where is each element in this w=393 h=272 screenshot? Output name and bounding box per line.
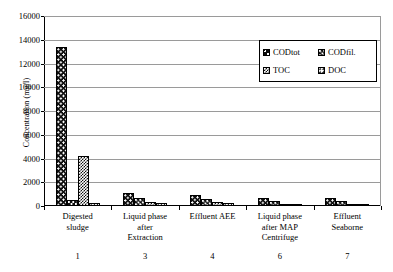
bar-toc xyxy=(280,204,291,206)
x-tick-mark xyxy=(246,206,247,210)
y-tick-label: 2000 xyxy=(0,178,44,186)
x-axis-label-line: Extraction xyxy=(111,232,178,243)
x-axis-label-line: Seaborne xyxy=(314,222,381,233)
y-tick-label: 14000 xyxy=(0,36,44,44)
bar-chart-figure: Concentration (mg/l) 0200040006000800010… xyxy=(0,0,393,272)
y-tick-label: 12000 xyxy=(0,60,44,68)
x-tick-mark xyxy=(111,206,112,210)
bar-codfil xyxy=(201,199,212,206)
x-axis-label-line: Digested xyxy=(44,211,111,222)
bar-doc xyxy=(291,204,302,206)
x-axis-number: 3 xyxy=(111,251,178,261)
x-axis-label: Liquid phaseafterExtraction xyxy=(111,211,178,243)
x-axis-label: Effluent AEE xyxy=(179,211,246,222)
chart-legend: CODtotCODfil.TOCDOC xyxy=(259,40,377,82)
bar-toc xyxy=(145,202,156,206)
bar-toc xyxy=(212,202,223,206)
legend-label: DOC xyxy=(328,66,346,75)
x-tick-mark xyxy=(44,206,45,210)
bar-toc xyxy=(347,204,358,206)
x-axis-label: EffluentSeaborne xyxy=(314,211,381,232)
bar-codtot xyxy=(258,198,269,206)
x-axis-label-line: Effluent AEE xyxy=(179,211,246,222)
x-axis-label-line: after xyxy=(111,222,178,233)
bar-set xyxy=(44,16,111,206)
legend-item-toc: TOC xyxy=(263,66,318,75)
bar-codtot xyxy=(190,195,201,206)
bar-doc xyxy=(358,204,369,206)
y-tick-label: 4000 xyxy=(0,155,44,163)
bar-group xyxy=(44,16,111,206)
x-axis-numbers: 13467 xyxy=(44,251,381,267)
bar-codfil xyxy=(336,201,347,206)
bar-doc xyxy=(89,203,100,206)
legend-label: CODtot xyxy=(273,48,300,57)
x-axis-label-line: Liquid phase xyxy=(111,211,178,222)
x-tick-mark xyxy=(179,206,180,210)
x-axis-label-line: Effluent xyxy=(314,211,381,222)
legend-item-doc: DOC xyxy=(318,66,373,75)
x-axis-labels: DigestedsludgeLiquid phaseafterExtractio… xyxy=(44,211,381,251)
x-axis-number: 7 xyxy=(314,251,381,261)
bar-toc xyxy=(78,156,89,206)
legend-swatch-icon xyxy=(318,49,325,56)
bar-codtot xyxy=(56,47,67,206)
x-axis-label-line: Liquid phase xyxy=(246,211,313,222)
x-tick-mark xyxy=(314,206,315,210)
legend-item-codtot: CODtot xyxy=(263,48,318,57)
legend-swatch-icon xyxy=(263,67,270,74)
bar-group xyxy=(179,16,246,206)
x-axis-label-line: Centrifuge xyxy=(246,232,313,243)
y-tick-label: 6000 xyxy=(0,131,44,139)
bar-set xyxy=(111,16,178,206)
y-tick-label: 0 xyxy=(0,202,44,210)
bar-codfil xyxy=(134,198,145,206)
x-axis-label-line: sludge xyxy=(44,222,111,233)
bar-group xyxy=(111,16,178,206)
x-axis-number: 1 xyxy=(44,251,111,261)
y-tick-label: 8000 xyxy=(0,107,44,115)
bar-doc xyxy=(156,203,167,206)
legend-swatch-icon xyxy=(318,67,325,74)
x-axis-number: 6 xyxy=(246,251,313,261)
legend-label: TOC xyxy=(273,66,290,75)
x-tick-mark xyxy=(381,206,382,210)
x-axis-label-line: after MAP xyxy=(246,222,313,233)
bar-codfil xyxy=(67,200,78,206)
legend-swatch-icon xyxy=(263,49,270,56)
bar-codfil xyxy=(269,201,280,206)
x-axis-label: Liquid phaseafter MAPCentrifuge xyxy=(246,211,313,243)
x-axis-number: 4 xyxy=(179,251,246,261)
legend-label: CODfil. xyxy=(328,48,356,57)
bar-set xyxy=(179,16,246,206)
bar-codtot xyxy=(123,193,134,206)
y-tick-label: 16000 xyxy=(0,12,44,20)
y-tick-label: 10000 xyxy=(0,83,44,91)
bar-doc xyxy=(223,203,234,206)
bar-codtot xyxy=(325,198,336,206)
x-axis-label: Digestedsludge xyxy=(44,211,111,232)
legend-item-codfil: CODfil. xyxy=(318,48,373,57)
